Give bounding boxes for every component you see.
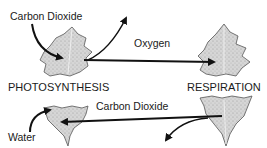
- oxygen-label: Oxygen: [134, 38, 170, 49]
- co2-in-label: Carbon Dioxide: [10, 11, 82, 22]
- co2-return-label: Carbon Dioxide: [96, 101, 168, 112]
- photosynthesis-leaf-bottom: [44, 106, 88, 146]
- photosynthesis-respiration-diagram: [0, 0, 267, 148]
- oxygen-arrow: [84, 60, 214, 62]
- respiration-leaf-bottom: [200, 96, 252, 146]
- photosynthesis-label: PHOTOSYNTHESIS: [8, 82, 109, 93]
- water-label: Water: [8, 132, 36, 143]
- respiration-label: RESPIRATION: [187, 82, 261, 93]
- out-arrow-bottom: [166, 118, 208, 140]
- respiration-leaf-top: [198, 24, 250, 76]
- out-arrow-top: [88, 18, 126, 60]
